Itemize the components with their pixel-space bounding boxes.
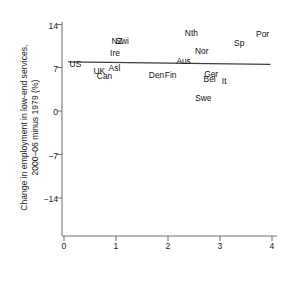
chart-figure: Change in employment in low-end services… <box>0 0 283 294</box>
data-point-label-swi: Swi <box>115 37 129 46</box>
data-point-label-nth: Nth <box>185 28 198 37</box>
data-point-label-den: Den <box>149 70 164 79</box>
y-axis <box>57 22 62 236</box>
data-point-label-sp: Sp <box>234 38 244 47</box>
data-point-label-aus: Aus <box>176 56 190 65</box>
data-point-label-ire: Ire <box>110 48 120 57</box>
data-point-label-us: US <box>70 59 82 68</box>
data-point-label-bel: Bel <box>204 75 216 84</box>
data-point-label-swe: Swe <box>195 93 211 102</box>
regression-fit-line <box>68 62 270 64</box>
x-axis <box>62 236 277 241</box>
data-point-label-asl: Asl <box>109 63 121 72</box>
data-point-label-por: Por <box>256 29 269 38</box>
data-point-label-fin: Fin <box>165 70 177 79</box>
data-point-label-can: Can <box>97 72 112 81</box>
data-point-label-nor: Nor <box>195 46 209 55</box>
data-point-label-it: It <box>222 77 227 86</box>
